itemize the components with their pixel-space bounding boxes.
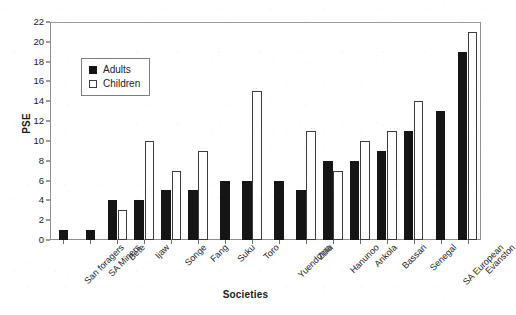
x-axis-tick-label: Songe [184,243,209,268]
x-axis-tick-label: Senegal [428,243,458,273]
bar-group [212,22,239,240]
hollow-square-icon [89,80,97,88]
bar-group [319,22,346,240]
bar-adults [220,181,230,240]
y-axis-tick-label: 20 [33,37,44,47]
bar-children [333,171,343,240]
bar-group [346,22,373,240]
legend-item-adults: Adults [89,63,140,77]
bar-adults [188,190,198,240]
bar-children [145,141,155,240]
bar-group [427,22,454,240]
y-axis-tick-label: 12 [33,116,44,126]
bar-adults [108,200,118,240]
bar-group [400,22,427,240]
bar-adults [86,230,96,240]
bar-children [414,101,424,240]
x-axis-tick-label: Toro [262,243,281,262]
y-axis-tick-label: 2 [39,215,44,225]
bar-children [387,131,397,240]
x-axis-title: Societies [0,289,491,300]
bar-children [252,91,262,240]
bar-group [50,22,77,240]
x-axis-tick-label: Ijaw [154,243,172,261]
bars-layer [50,22,481,240]
bar-children [306,131,316,240]
bar-adults [59,230,69,240]
x-axis-tick-label: Fang [209,243,230,264]
legend-label-children: Children [103,79,140,89]
bar-children [118,210,128,240]
y-axis-tick-label: 8 [39,156,44,166]
bar-group [158,22,185,240]
bar-adults [458,52,468,240]
y-axis-tick-label: 4 [39,196,44,206]
bar-children [172,171,182,240]
bar-group [373,22,400,240]
legend-label-adults: Adults [103,65,131,75]
bar-adults [161,190,171,240]
y-axis-tick-label: 16 [33,77,44,87]
x-axis-tick-label: Suku [236,243,257,264]
bar-adults [134,200,144,240]
y-axis-tick-label: 6 [39,176,44,186]
bar-group [131,22,158,240]
bar-children [198,151,208,240]
y-axis-tick-label: 18 [33,57,44,67]
x-axis-tick-label: Bassari [401,243,429,271]
bar-group [104,22,131,240]
bar-adults [350,161,360,240]
y-axis-tick-labels: 0246810121416182022 [22,0,50,315]
bar-adults [436,111,446,240]
bar-group [185,22,212,240]
bar-children [360,141,370,240]
x-axis-tick-label: Zulu [316,243,335,262]
bar-adults [404,131,414,240]
y-axis-tick-label: 10 [33,136,44,146]
bar-adults [274,181,284,240]
y-axis-tick-label: 22 [33,17,44,27]
bar-group [292,22,319,240]
bar-adults [242,181,252,240]
bar-adults [323,161,333,240]
bar-group [239,22,266,240]
bar-group [266,22,293,240]
bar-children [468,32,478,240]
y-axis-tick-label: 0 [39,235,44,245]
bar-group [77,22,104,240]
chart-legend: Adults Children [81,58,150,96]
y-axis-tick-label: 14 [33,97,44,107]
filled-square-icon [89,66,97,74]
bar-adults [377,151,387,240]
bar-group [454,22,481,240]
bar-adults [296,190,306,240]
legend-item-children: Children [89,77,140,91]
